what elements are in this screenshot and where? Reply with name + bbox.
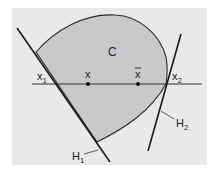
diagram: C x1 x x x2 H1 H2 bbox=[0, 0, 217, 186]
point-x-dot bbox=[86, 82, 90, 86]
point-xbar-dot bbox=[136, 82, 140, 86]
point-label-xbar: x bbox=[135, 68, 141, 80]
point-label-x: x bbox=[85, 68, 91, 80]
region-label-c: C bbox=[108, 45, 117, 59]
diagram-canvas: C x1 x x x2 H1 H2 bbox=[0, 0, 217, 186]
